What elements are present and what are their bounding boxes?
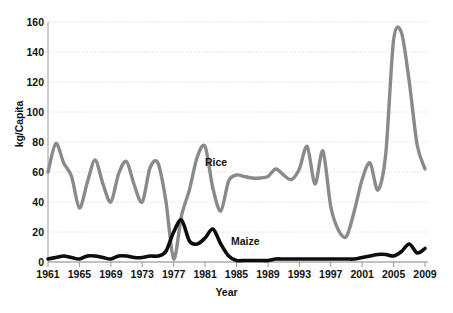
y-tick-100: 100 — [0, 106, 44, 118]
x-tick-1969: 1969 — [99, 268, 122, 280]
series-line-rice — [48, 27, 425, 259]
y-tick-120: 120 — [0, 76, 44, 88]
x-tick-1985: 1985 — [225, 268, 248, 280]
x-tick-2005: 2005 — [382, 268, 405, 280]
x-tick-1997: 1997 — [319, 268, 342, 280]
y-tick-60: 60 — [0, 166, 44, 178]
x-tick-1989: 1989 — [256, 268, 279, 280]
x-tick-2001: 2001 — [350, 268, 373, 280]
y-tick-140: 140 — [0, 46, 44, 58]
x-axis-title: Year — [0, 286, 453, 298]
y-tick-160: 160 — [0, 16, 44, 28]
y-tick-20: 20 — [0, 226, 44, 238]
x-tick-2009: 2009 — [413, 268, 436, 280]
x-axis-tick-marks — [48, 262, 425, 267]
x-tick-1981: 1981 — [193, 268, 216, 280]
y-axis-tick-labels: 160 140 120 100 80 60 40 20 0 — [0, 0, 44, 313]
y-tick-80: 80 — [0, 136, 44, 148]
series-label-rice: Rice — [205, 156, 227, 168]
gridlines — [48, 22, 428, 262]
caption-ghost — [55, 303, 385, 313]
x-tick-1965: 1965 — [68, 268, 91, 280]
chart-container: kg/Capita 160 140 120 100 80 60 40 20 0 … — [0, 0, 453, 313]
y-tick-0: 0 — [0, 256, 44, 268]
x-tick-1973: 1973 — [131, 268, 154, 280]
x-tick-1993: 1993 — [288, 268, 311, 280]
y-tick-40: 40 — [0, 196, 44, 208]
x-tick-1961: 1961 — [36, 268, 59, 280]
series-label-maize: Maize — [231, 235, 260, 247]
x-tick-1977: 1977 — [162, 268, 185, 280]
